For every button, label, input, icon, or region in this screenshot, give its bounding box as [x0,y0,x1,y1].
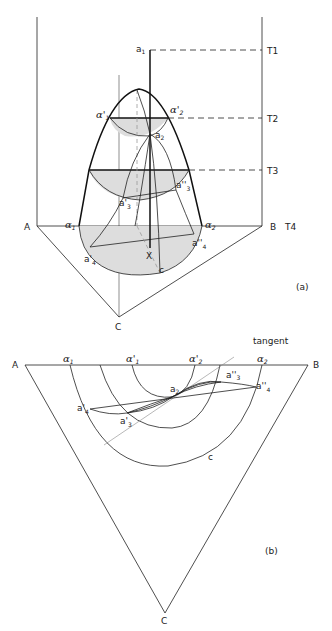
a3pp-label: a''3 [226,370,240,381]
figure-a-caption: (a) [296,282,309,292]
a2-label: a2 [155,130,165,141]
a4p-label: a'4 [77,403,89,415]
t1-label: T1 [266,46,278,56]
c-point-label: c [208,452,213,462]
vertex-c-label: C [161,616,167,626]
arc-t2 [132,365,195,397]
t2-label: T2 [266,114,278,124]
alpha1-label: α1 [65,219,76,231]
phase-diagram: A B C T1 T2 T3 T4 a1 a2 a'3 a''3 a'4 a''… [0,0,332,631]
a3p-label: a'3 [119,198,131,210]
a3pp-label: a''3 [176,180,190,192]
alpha1p-label: α'1 [126,353,139,365]
figure-a: A B C T1 T2 T3 T4 a1 a2 a'3 a''3 a'4 a''… [24,17,309,332]
alpha2p-label: α'2 [189,353,203,365]
vertex-b-label: B [270,222,276,232]
t3-label: T3 [266,166,278,176]
t4-label: T4 [284,222,296,232]
alpha2p-label: α'2 [170,104,184,116]
a1-label: a1 [136,44,146,55]
vertex-b-label: B [313,360,319,370]
vertex-a-label: A [12,360,19,370]
c-point-label: c [159,265,164,275]
figure-b-caption: (b) [265,546,278,556]
vertex-c-label: C [115,322,121,332]
a2-label: a2 [170,384,180,395]
arc-t4 [70,365,262,466]
a4pp-label: a''4 [256,381,270,393]
alpha2-label: α2 [205,219,216,231]
alpha2-label: α2 [257,353,268,365]
tangent-label: tangent [253,336,289,346]
tangent-line [104,357,234,445]
figure-b: A B C tangent α1 α'1 α'2 α2 a2 a'3 a''3 … [12,336,319,626]
vertex-a-label: A [24,222,31,232]
edge-bc [165,365,308,613]
x-label: X [146,251,152,261]
alpha1-label: α1 [63,353,74,365]
a4pp-label: a''4 [192,238,206,250]
alpha1p-label: α'1 [96,109,109,121]
a3p-label: a'3 [120,416,132,428]
